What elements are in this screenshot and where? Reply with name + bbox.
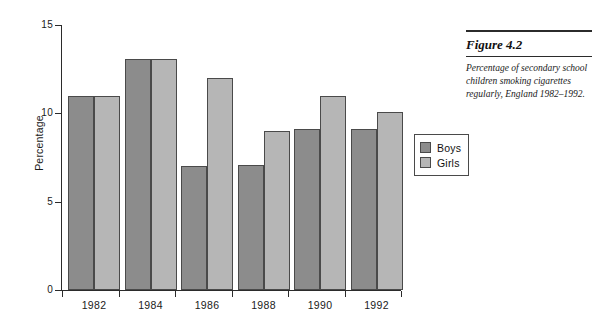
figure-caption: Figure 4.2 Percentage of secondary schoo… xyxy=(466,30,592,101)
y-axis-tick xyxy=(55,113,61,114)
x-axis-tick-label: 1992 xyxy=(347,299,407,311)
x-axis-tick xyxy=(175,291,176,297)
bar-girls-1990 xyxy=(320,96,346,290)
bar-boys-1990 xyxy=(294,129,320,290)
bar-boys-1988 xyxy=(238,165,264,290)
x-axis-tick-label: 1990 xyxy=(290,299,350,311)
y-axis-tick xyxy=(55,202,61,203)
x-axis-tick xyxy=(119,291,120,297)
legend-item-label: Boys xyxy=(437,142,461,154)
bar-girls-1982 xyxy=(94,96,120,290)
legend-swatch-icon xyxy=(420,157,431,168)
x-axis-tick xyxy=(345,291,346,297)
caption-text: Percentage of secondary school children … xyxy=(466,62,592,101)
legend-item-girls: Girls xyxy=(420,155,461,170)
chart-legend: BoysGirls xyxy=(414,134,469,176)
bar-girls-1986 xyxy=(207,78,233,290)
y-axis-tick-label: 5 xyxy=(23,196,53,207)
y-axis-tick-label: 15 xyxy=(23,19,53,30)
bar-girls-1984 xyxy=(151,59,177,290)
bar-boys-1984 xyxy=(125,59,151,290)
legend-item-boys: Boys xyxy=(420,140,461,155)
bar-boys-1982 xyxy=(68,96,94,290)
y-axis-tick-label: 10 xyxy=(23,107,53,118)
x-axis-tick xyxy=(288,291,289,297)
x-axis-tick-label: 1984 xyxy=(121,299,181,311)
bar-girls-1992 xyxy=(377,112,403,290)
x-axis-tick xyxy=(401,291,402,297)
bars-layer xyxy=(62,25,402,290)
legend-item-label: Girls xyxy=(437,157,460,169)
y-axis-title: Percentage xyxy=(33,83,45,203)
bar-boys-1986 xyxy=(181,166,207,290)
x-axis-tick-label: 1982 xyxy=(64,299,124,311)
legend-swatch-icon xyxy=(420,142,431,153)
x-axis-tick-label: 1986 xyxy=(177,299,237,311)
caption-rule-bottom xyxy=(466,56,592,57)
figure-panel: Percentage 05101519821984198619881990199… xyxy=(0,0,410,324)
x-axis-tick-label: 1988 xyxy=(234,299,294,311)
caption-title: Figure 4.2 xyxy=(466,37,592,56)
bar-boys-1992 xyxy=(351,129,377,290)
x-axis-tick xyxy=(62,291,63,297)
y-axis-tick xyxy=(55,25,61,26)
x-axis-tick xyxy=(232,291,233,297)
y-axis-tick-label: 0 xyxy=(23,284,53,295)
caption-rule-top xyxy=(466,30,592,32)
y-axis-tick xyxy=(55,290,61,291)
bar-girls-1988 xyxy=(264,131,290,290)
